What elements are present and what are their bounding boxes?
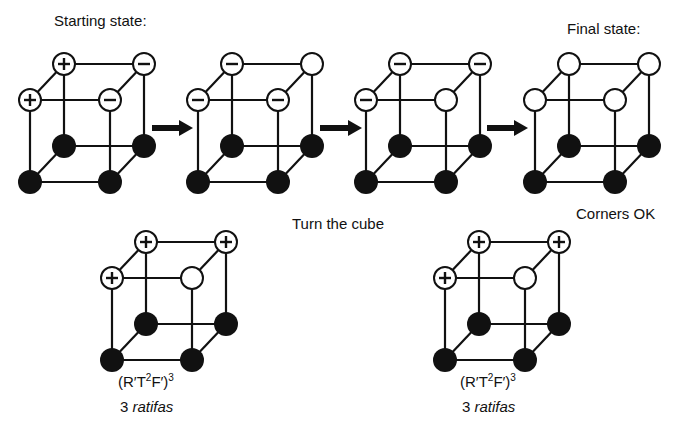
solved-corner-icon [186,170,210,194]
solved-corner-icon [434,170,458,194]
solved-corner-icon [214,312,238,336]
oriented-corner-icon [514,267,536,289]
solved-corner-icon [637,134,661,158]
cube-diagram [0,0,677,429]
plus-corner-icon [468,231,490,253]
oriented-corner-icon [638,53,660,75]
minus-corner-icon [187,89,209,111]
solved-corner-icon [468,134,492,158]
solved-corner-icon [557,134,581,158]
solved-corner-icon [220,134,244,158]
solved-corner-icon [433,348,457,372]
right-arrow-icon [487,120,528,136]
solved-corner-icon [388,134,412,158]
plus-corner-icon [101,267,123,289]
cube-bottom-right [433,231,571,372]
solved-corner-icon [300,134,324,158]
plus-corner-icon [53,53,75,75]
solved-corner-icon [354,170,378,194]
cube-final [523,53,661,194]
minus-corner-icon [355,89,377,111]
solved-corner-icon [100,348,124,372]
solved-corner-icon [523,170,547,194]
minus-corner-icon [267,89,289,111]
cube-bottom-left [100,231,238,372]
solved-corner-icon [513,348,537,372]
solved-corner-icon [180,348,204,372]
solved-corner-icon [603,170,627,194]
solved-corner-icon [98,170,122,194]
minus-corner-icon [469,53,491,75]
oriented-corner-icon [435,89,457,111]
solved-corner-icon [266,170,290,194]
solved-corner-icon [132,134,156,158]
oriented-corner-icon [558,53,580,75]
minus-corner-icon [389,53,411,75]
minus-corner-icon [133,53,155,75]
minus-corner-icon [221,53,243,75]
plus-corner-icon [548,231,570,253]
cube-step-3 [354,53,492,194]
solved-corner-icon [52,134,76,158]
oriented-corner-icon [604,89,626,111]
oriented-corner-icon [524,89,546,111]
solved-corner-icon [18,170,42,194]
solved-corner-icon [134,312,158,336]
oriented-corner-icon [181,267,203,289]
oriented-corner-icon [301,53,323,75]
right-arrow-icon [152,120,193,136]
cube-step-2 [186,53,324,194]
solved-corner-icon [467,312,491,336]
plus-corner-icon [434,267,456,289]
plus-corner-icon [19,89,41,111]
plus-corner-icon [215,231,237,253]
right-arrow-icon [320,120,362,136]
cube-starting [18,53,156,194]
plus-corner-icon [135,231,157,253]
solved-corner-icon [547,312,571,336]
minus-corner-icon [99,89,121,111]
